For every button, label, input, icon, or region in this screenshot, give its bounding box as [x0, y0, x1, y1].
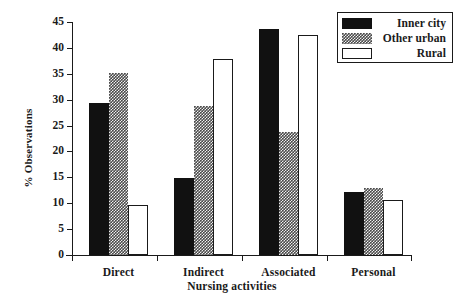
legend-swatch-other-urban: [342, 33, 372, 44]
legend-label-inner-city: Inner city: [372, 17, 448, 29]
y-tick-mark: [67, 48, 72, 49]
y-tick-label: 10: [53, 197, 65, 209]
y-tick-label: 25: [53, 120, 65, 132]
y-tick-mark: [67, 177, 72, 178]
x-tick-mark: [157, 255, 158, 261]
y-axis-title: % Observations: [22, 68, 34, 228]
legend-swatch-rural: [342, 48, 372, 59]
bar-rural-indirect: [213, 59, 233, 255]
legend-label-other-urban: Other urban: [372, 32, 448, 44]
category-label-associated: Associated: [261, 266, 315, 278]
bar-rural-personal: [383, 200, 403, 255]
bar-other-urban-associated: [279, 132, 299, 255]
bar-other-urban-direct: [109, 73, 129, 255]
category-label-direct: Direct: [103, 266, 135, 278]
x-tick-mark: [327, 255, 328, 261]
y-tick-mark: [67, 22, 72, 23]
bar-other-urban-indirect: [194, 106, 214, 255]
y-tick-mark: [67, 203, 72, 204]
legend-entry-inner-city: Inner city: [342, 16, 448, 30]
y-tick-mark: [67, 126, 72, 127]
x-tick-mark: [411, 255, 412, 261]
y-axis-line: [72, 22, 73, 256]
chart-legend: Inner city Other urban Rural: [337, 12, 453, 63]
category-label-indirect: Indirect: [183, 266, 224, 278]
y-tick-mark: [67, 229, 72, 230]
legend-entry-other-urban: Other urban: [342, 31, 448, 45]
bar-rural-direct: [128, 205, 148, 255]
bar-rural-associated: [298, 35, 318, 255]
y-tick-mark: [67, 100, 72, 101]
bar-other-urban-personal: [364, 188, 384, 255]
y-tick-label: 15: [53, 172, 65, 184]
bar-inner-city-direct: [89, 103, 109, 255]
legend-label-rural: Rural: [372, 47, 448, 59]
bar-inner-city-personal: [344, 192, 364, 255]
y-tick-label: 45: [53, 16, 65, 28]
x-tick-mark: [242, 255, 243, 261]
y-tick-label: 30: [53, 94, 65, 106]
x-axis-line: [66, 255, 412, 256]
y-tick-label: 40: [53, 42, 65, 54]
bar-chart: % Observations 051015202530354045 Direct…: [0, 0, 464, 303]
x-axis-title: Nursing activities: [0, 280, 464, 292]
legend-entry-rural: Rural: [342, 46, 448, 60]
x-tick-mark: [72, 255, 73, 261]
y-tick-label: 5: [58, 223, 64, 235]
bar-inner-city-indirect: [174, 178, 194, 255]
category-label-personal: Personal: [351, 266, 395, 278]
y-tick-label: 35: [53, 68, 65, 80]
y-tick-mark: [67, 74, 72, 75]
y-tick-label: 20: [53, 146, 65, 158]
y-tick-label: 0: [58, 249, 64, 261]
y-tick-mark: [67, 151, 72, 152]
legend-swatch-inner-city: [342, 18, 372, 29]
bar-inner-city-associated: [259, 29, 279, 255]
